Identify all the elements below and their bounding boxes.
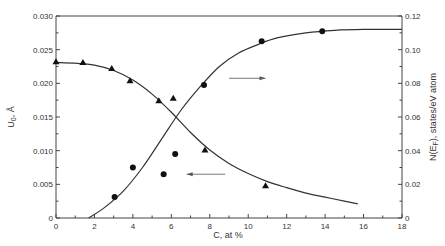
y-right-tick-label: 0	[405, 214, 410, 223]
arrow-right-icon	[260, 76, 266, 80]
arrow-left-icon	[187, 172, 193, 176]
y-left-tick-label: 0	[49, 214, 54, 223]
x-tick-label: 16	[359, 222, 368, 231]
x-tick-label: 12	[282, 222, 291, 231]
y-right-tick-label: 0.04	[405, 147, 421, 156]
x-tick-label: 14	[321, 222, 330, 231]
triangle-marker	[170, 95, 177, 101]
y-left-tick-label: 0.015	[33, 113, 54, 122]
y-right-axis: 00.020.040.060.080.100.12	[398, 12, 421, 223]
chart: 024681012141618 00.0050.0100.0150.0200.0…	[0, 0, 445, 246]
circle-marker	[259, 38, 265, 44]
y-left-tick-label: 0.025	[33, 46, 54, 55]
circle-marker	[201, 82, 207, 88]
y-right-tick-label: 0.02	[405, 180, 421, 189]
y-left-axis-label: U0, Å	[6, 106, 17, 127]
circle-marker	[161, 171, 167, 177]
x-tick-label: 6	[169, 222, 174, 231]
circle-marker	[130, 165, 136, 171]
circle-marker	[112, 194, 118, 200]
y-left-tick-label: 0.005	[33, 180, 54, 189]
triangle-marker	[108, 65, 115, 71]
y-right-tick-label: 0.08	[405, 79, 421, 88]
triangle-marker	[262, 182, 269, 188]
x-tick-label: 10	[244, 222, 253, 231]
x-tick-label: 2	[92, 222, 97, 231]
y-left-tick-label: 0.010	[33, 147, 54, 156]
x-tick-label: 8	[208, 222, 213, 231]
y-right-axis-label: N(EF), states/eV atom	[428, 73, 439, 161]
plot-frame	[56, 16, 402, 218]
y-left-tick-label: 0.030	[33, 12, 54, 21]
y-left-tick-label: 0.020	[33, 79, 54, 88]
circle-marker	[172, 151, 178, 157]
y-right-tick-label: 0.12	[405, 12, 421, 21]
fit-curves	[56, 29, 402, 218]
x-tick-label: 18	[398, 222, 407, 231]
y-right-tick-label: 0.10	[405, 46, 421, 55]
x-axis: 024681012141618	[54, 214, 407, 231]
triangle-marker	[79, 59, 86, 65]
circle-marker	[319, 28, 325, 34]
x-axis-label: C, at %	[213, 230, 243, 240]
y-right-tick-label: 0.06	[405, 113, 421, 122]
x-tick-label: 4	[131, 222, 136, 231]
x-tick-label: 0	[54, 222, 59, 231]
triangle-marker	[53, 58, 60, 64]
u0-fit-curve	[56, 62, 358, 203]
nef-fit-curve	[89, 29, 402, 218]
